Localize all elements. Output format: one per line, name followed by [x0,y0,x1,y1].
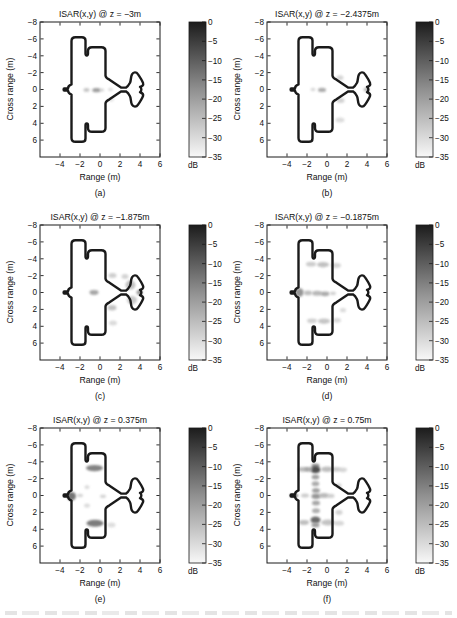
svg-text:0: 0 [325,566,330,575]
x-axis-label: Range (m) [40,375,160,385]
subplot-letter: (f) [267,594,387,604]
svg-text:0: 0 [32,85,37,94]
svg-text:−25: −25 [208,317,222,326]
svg-text:−10: −10 [435,57,449,66]
svg-text:−30: −30 [435,540,449,549]
svg-text:0: 0 [259,85,264,94]
svg-text:dB: dB [415,161,426,170]
svg-text:−2: −2 [75,363,85,372]
svg-text:4: 4 [138,566,143,575]
svg-text:−25: −25 [208,114,222,123]
subplot-b: −4−20246−8−6−4−202460−5−10−15−20−25−30−3… [227,0,454,203]
svg-text:−6: −6 [255,238,265,247]
svg-text:−6: −6 [255,35,265,44]
svg-text:−35: −35 [435,559,449,568]
y-axis-label: Cross range (m) [5,225,15,360]
svg-text:−8: −8 [28,221,38,230]
svg-text:dB: dB [415,567,426,576]
svg-text:−20: −20 [208,95,222,104]
subplot-f: −4−20246−8−6−4−202460−5−10−15−20−25−30−3… [227,406,454,609]
svg-text:4: 4 [138,363,143,372]
svg-text:−8: −8 [255,18,265,27]
svg-text:dB: dB [188,161,199,170]
svg-text:0: 0 [435,18,440,27]
svg-text:0: 0 [435,221,440,230]
svg-text:6: 6 [32,136,37,145]
svg-text:0: 0 [208,18,213,27]
svg-text:−2: −2 [28,272,38,281]
svg-text:−35: −35 [435,356,449,365]
subplot-title: ISAR(x,y) @ z = −3m [22,9,178,19]
svg-text:4: 4 [259,322,264,331]
svg-text:6: 6 [158,160,163,169]
svg-text:6: 6 [385,160,390,169]
svg-text:6: 6 [158,363,163,372]
svg-text:−2: −2 [28,69,38,78]
svg-text:0: 0 [98,566,103,575]
svg-text:−10: −10 [208,260,222,269]
y-axis-label: Cross range (m) [5,428,15,563]
svg-text:0: 0 [32,288,37,297]
svg-text:0: 0 [98,363,103,372]
svg-text:−6: −6 [28,238,38,247]
svg-text:0: 0 [259,491,264,500]
isar-figure: −4−20246−8−6−4−202460−5−10−15−20−25−30−3… [0,0,457,618]
svg-text:−10: −10 [208,57,222,66]
svg-text:dB: dB [188,364,199,373]
subplot-title: ISAR(x,y) @ z = −0.1875m [249,212,405,222]
subplot-a: −4−20246−8−6−4−202460−5−10−15−20−25−30−3… [0,0,227,203]
svg-text:−30: −30 [435,134,449,143]
svg-text:0: 0 [208,424,213,433]
svg-text:2: 2 [345,363,350,372]
svg-text:−4: −4 [28,52,38,61]
subplot-letter: (e) [40,594,160,604]
svg-text:−2: −2 [75,566,85,575]
svg-text:−5: −5 [208,240,218,249]
svg-text:−15: −15 [208,482,222,491]
svg-text:−20: −20 [435,298,449,307]
svg-text:4: 4 [32,322,37,331]
svg-text:−2: −2 [75,160,85,169]
svg-text:−2: −2 [255,475,265,484]
svg-text:2: 2 [32,102,37,111]
svg-text:2: 2 [345,160,350,169]
subplot-letter: (d) [267,391,387,401]
svg-text:−10: −10 [208,463,222,472]
x-axis-label: Range (m) [267,375,387,385]
svg-text:−5: −5 [435,37,445,46]
svg-text:−10: −10 [435,260,449,269]
svg-text:6: 6 [259,542,264,551]
svg-text:0: 0 [32,491,37,500]
svg-text:−15: −15 [435,279,449,288]
svg-text:2: 2 [118,160,123,169]
svg-text:−4: −4 [255,458,265,467]
svg-text:2: 2 [259,102,264,111]
svg-text:4: 4 [365,363,370,372]
svg-text:−2: −2 [255,69,265,78]
svg-text:−15: −15 [208,279,222,288]
svg-text:−6: −6 [255,441,265,450]
svg-text:4: 4 [138,160,143,169]
svg-text:−10: −10 [435,463,449,472]
svg-text:−8: −8 [255,221,265,230]
svg-text:−15: −15 [435,482,449,491]
subplot-title: ISAR(x,y) @ z = −1.875m [22,212,178,222]
svg-text:2: 2 [32,508,37,517]
svg-text:−2: −2 [255,272,265,281]
subplot-title: ISAR(x,y) @ z = 0.75m [249,415,405,425]
svg-text:−25: −25 [435,520,449,529]
x-axis-label: Range (m) [40,172,160,182]
svg-text:−30: −30 [208,337,222,346]
svg-text:6: 6 [259,339,264,348]
svg-text:4: 4 [32,525,37,534]
svg-text:−8: −8 [255,424,265,433]
svg-text:4: 4 [365,566,370,575]
svg-text:dB: dB [188,567,199,576]
svg-text:−4: −4 [55,566,65,575]
svg-text:−5: −5 [208,37,218,46]
svg-text:−4: −4 [255,52,265,61]
svg-text:−6: −6 [28,441,38,450]
x-axis-label: Range (m) [267,578,387,588]
svg-text:−2: −2 [302,566,312,575]
svg-text:6: 6 [385,363,390,372]
